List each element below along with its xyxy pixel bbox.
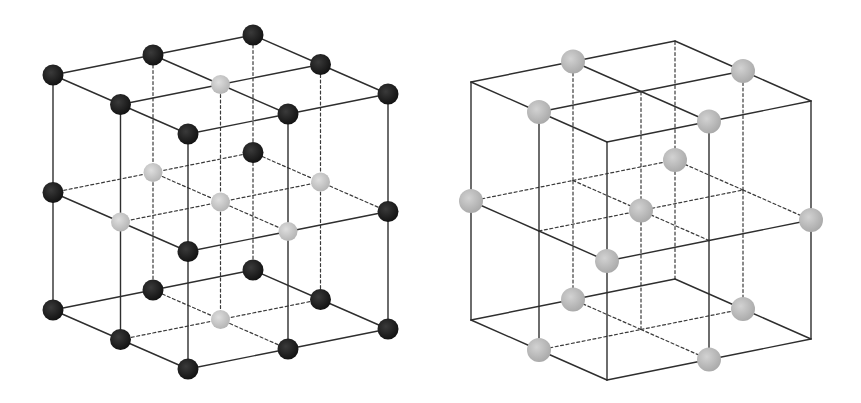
solid-lattice-line [188, 232, 288, 252]
light-atom [459, 189, 483, 213]
solid-lattice-line [607, 241, 709, 262]
dark-atom [310, 54, 331, 75]
light-atom [144, 163, 163, 182]
dashed-lattice-line [221, 182, 321, 202]
light-atom [111, 213, 130, 232]
solid-lattice-line [188, 349, 288, 369]
light-atom [629, 199, 653, 223]
dark-atom [178, 124, 199, 145]
dark-atom [178, 241, 199, 262]
solid-lattice-line [221, 65, 321, 85]
dashed-lattice-line [221, 202, 289, 232]
dashed-lattice-line [153, 173, 221, 203]
solid-lattice-line [321, 65, 389, 95]
light-atom [697, 348, 721, 372]
solid-lattice-line [121, 222, 189, 252]
light-atom [561, 288, 585, 312]
dark-atom [43, 182, 64, 203]
solid-lattice-line [471, 62, 573, 83]
dashed-lattice-line [253, 153, 321, 183]
dashed-lattice-line [121, 320, 221, 340]
solid-lattice-line [121, 105, 189, 135]
light-atom [561, 50, 585, 74]
solid-lattice-line [573, 279, 675, 300]
solid-lattice-line [121, 340, 189, 370]
solid-lattice-line [607, 122, 709, 143]
dark-atom [378, 201, 399, 222]
light-atom [731, 297, 755, 321]
dark-atom [378, 84, 399, 105]
solid-lattice-line [53, 290, 153, 310]
figure-canvas [0, 0, 861, 403]
left-lattice-atoms [43, 25, 399, 380]
solid-lattice-line [641, 71, 743, 92]
dashed-lattice-line [539, 330, 641, 351]
solid-lattice-line [288, 329, 388, 349]
dark-atom [278, 104, 299, 125]
dashed-lattice-line [221, 300, 321, 320]
solid-lattice-line [709, 220, 811, 241]
dark-atom [243, 142, 264, 163]
dark-atom [43, 65, 64, 86]
dark-atom [110, 329, 131, 350]
solid-lattice-line [288, 94, 388, 114]
light-atom [663, 148, 687, 172]
dark-atom [243, 25, 264, 46]
solid-lattice-line [471, 300, 573, 321]
light-atom [527, 100, 551, 124]
dashed-lattice-line [53, 173, 153, 193]
dashed-lattice-line [573, 160, 675, 181]
solid-lattice-line [53, 193, 121, 223]
light-atom [595, 249, 619, 273]
solid-lattice-line [153, 270, 253, 290]
solid-lattice-line [321, 300, 389, 330]
dark-atom [110, 94, 131, 115]
solid-lattice-line [53, 75, 121, 105]
dark-atom [378, 319, 399, 340]
solid-lattice-line [253, 35, 321, 65]
dashed-lattice-line [641, 309, 743, 330]
solid-lattice-line [288, 212, 388, 232]
solid-lattice-line [539, 92, 641, 113]
dashed-lattice-line [471, 181, 573, 202]
dark-atom [178, 359, 199, 380]
solid-lattice-line [53, 55, 153, 75]
light-atom [311, 173, 330, 192]
dashed-lattice-line [641, 190, 743, 211]
solid-lattice-line [188, 114, 288, 134]
solid-lattice-line [221, 85, 289, 115]
dashed-lattice-line [321, 182, 389, 212]
solid-lattice-line [53, 310, 121, 340]
solid-lattice-line [573, 41, 675, 62]
dashed-lattice-line [221, 320, 289, 350]
light-atom [731, 59, 755, 83]
left-lattice-diagram [43, 25, 399, 380]
lattice-figure [0, 0, 861, 403]
dashed-lattice-line [153, 290, 221, 320]
light-atom [799, 208, 823, 232]
light-atom [211, 75, 230, 94]
dashed-lattice-line [121, 202, 221, 222]
solid-lattice-line [709, 339, 811, 360]
dark-atom [310, 289, 331, 310]
light-atom [697, 110, 721, 134]
dashed-lattice-line [153, 153, 253, 173]
dark-atom [243, 260, 264, 281]
solid-lattice-line [253, 270, 321, 300]
solid-lattice-line [709, 101, 811, 122]
light-atom [527, 338, 551, 362]
solid-lattice-line [607, 360, 709, 381]
light-atom [211, 310, 230, 329]
dark-atom [278, 339, 299, 360]
solid-lattice-line [121, 85, 221, 105]
light-atom [279, 222, 298, 241]
solid-lattice-line [153, 55, 221, 85]
light-atom [211, 193, 230, 212]
dark-atom [143, 280, 164, 301]
solid-lattice-line [153, 35, 253, 55]
dashed-lattice-line [539, 211, 641, 232]
dark-atom [143, 45, 164, 66]
right-lattice-diagram [459, 41, 823, 380]
dark-atom [43, 300, 64, 321]
